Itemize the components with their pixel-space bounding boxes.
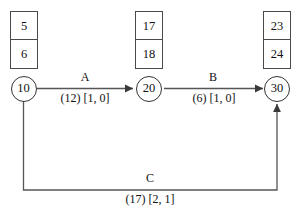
network-edges-canvas — [0, 0, 296, 219]
network-diagram: 5 6 10 17 18 20 23 24 30 A (12) [1, 0] B… — [0, 0, 296, 219]
edge-line-c — [24, 101, 278, 190]
